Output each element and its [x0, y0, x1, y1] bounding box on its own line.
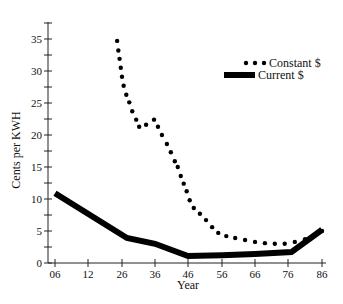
constant-data-point [130, 109, 134, 113]
x-tick-label: 12 [83, 268, 94, 280]
constant-data-point [192, 206, 196, 210]
constant-data-point [120, 75, 124, 79]
y-tick-label: 10 [31, 193, 43, 205]
constant-data-point [156, 124, 160, 128]
x-tick-label: 86 [317, 268, 329, 280]
constant-data-point [160, 133, 164, 137]
constant-data-point [137, 124, 141, 128]
constant-data-point [124, 92, 128, 96]
y-tick-label: 20 [31, 129, 43, 141]
constant-data-point [184, 189, 188, 193]
constant-data-point [233, 236, 237, 240]
x-tick-label: 66 [250, 268, 262, 280]
constant-data-point [152, 117, 156, 121]
constant-data-point [119, 66, 123, 70]
x-tick-label: 36 [150, 268, 162, 280]
constant-data-point [224, 234, 228, 238]
x-tick-label: 26 [117, 268, 129, 280]
constant-data-point [134, 117, 138, 121]
x-tick-label: 76 [283, 268, 295, 280]
constant-data-point [198, 212, 202, 216]
x-tick-label: 06 [50, 268, 62, 280]
constant-data-point [176, 165, 180, 169]
constant-data-point [117, 57, 121, 61]
y-tick-label: 0 [37, 257, 43, 269]
y-tick-label: 35 [31, 33, 43, 45]
constant-data-point [210, 225, 214, 229]
constant-data-point [182, 181, 186, 185]
y-tick-label: 5 [37, 225, 43, 237]
constant-data-point [188, 198, 192, 202]
constant-data-point [293, 240, 297, 244]
x-axis-title: Year [177, 278, 199, 292]
constant-data-point [263, 241, 267, 245]
y-axis: 05101520253035 [31, 22, 52, 269]
x-axis: 061226364656667686 [48, 259, 328, 280]
constant-data-point [115, 39, 119, 43]
constant-data-point [273, 242, 277, 246]
legend-current-swatch [224, 72, 255, 78]
constant-data-point [127, 100, 131, 104]
constant-data-point [144, 123, 148, 127]
legend: Constant $ Current $ [224, 56, 321, 82]
constant-data-point [253, 240, 257, 244]
x-tick-label: 56 [217, 268, 229, 280]
constant-data-point [173, 159, 177, 163]
constant-data-point [243, 238, 247, 242]
legend-current-label: Current $ [258, 68, 304, 82]
y-tick-label: 30 [31, 65, 43, 77]
y-tick-label: 25 [31, 97, 43, 109]
y-tick-label: 15 [31, 161, 43, 173]
constant-data-point [169, 150, 173, 154]
constant-data-point [204, 218, 208, 222]
constant-data-point [179, 174, 183, 178]
constant-data-point [216, 231, 220, 235]
chart: 05101520253035 061226364656667686 Cents … [0, 0, 343, 304]
constant-data-point [283, 242, 287, 246]
constant-data-point [121, 84, 125, 88]
current-dollar-series [55, 193, 322, 256]
legend-constant-swatch [244, 61, 266, 65]
y-axis-title: Cents per KWH [9, 111, 23, 189]
constant-data-point [165, 142, 169, 146]
constant-data-point [116, 48, 120, 52]
